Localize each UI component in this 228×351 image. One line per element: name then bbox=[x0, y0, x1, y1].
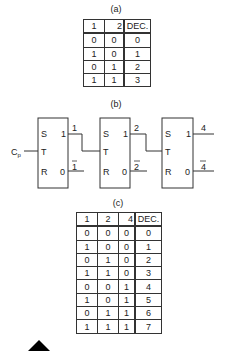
cell: 0 bbox=[98, 240, 119, 253]
table-row: 1117 bbox=[77, 320, 162, 333]
cell: 6 bbox=[135, 307, 162, 320]
cell: 0 bbox=[98, 226, 119, 240]
clock-label: Cp bbox=[11, 147, 22, 158]
cell: 1 bbox=[119, 320, 136, 333]
svg-text:0: 0 bbox=[185, 167, 190, 177]
truth-table-c: 1 2 4 DEC. 0000 1001 0102 1103 0014 1015… bbox=[76, 212, 162, 334]
cell: 1 bbox=[98, 320, 119, 333]
header-cell: 1 bbox=[77, 213, 98, 227]
header-cell: 2 bbox=[98, 213, 119, 227]
svg-text:1: 1 bbox=[123, 129, 128, 139]
table-row: 0014 bbox=[77, 280, 162, 293]
flipflop-2: S T R 1 0 2 2 bbox=[100, 118, 162, 188]
cell: 1 bbox=[119, 293, 136, 306]
svg-text:R: R bbox=[165, 167, 172, 177]
flipflop-1: S T R 1 0 1 1 bbox=[38, 118, 100, 188]
cell: 1 bbox=[77, 293, 98, 306]
svg-text:R: R bbox=[103, 167, 110, 177]
cell: 0 bbox=[135, 226, 162, 240]
svg-text:1: 1 bbox=[186, 129, 191, 139]
cell: 0 bbox=[119, 253, 136, 266]
svg-text:S: S bbox=[41, 129, 47, 139]
cell: 1 bbox=[98, 307, 119, 320]
cell: 1 bbox=[119, 280, 136, 293]
svg-text:T: T bbox=[41, 147, 47, 157]
cell: 0 bbox=[119, 267, 136, 280]
table-row: 0000 bbox=[77, 226, 162, 240]
cell: 0 bbox=[77, 253, 98, 266]
cell: 5 bbox=[135, 293, 162, 306]
caption-c: (c) bbox=[103, 198, 133, 208]
cell: 0 bbox=[119, 240, 136, 253]
table-row: 1015 bbox=[77, 293, 162, 306]
cell: 0 bbox=[77, 307, 98, 320]
table-row: 1103 bbox=[77, 267, 162, 280]
svg-text:0: 0 bbox=[122, 167, 127, 177]
svg-text:0: 0 bbox=[60, 167, 65, 177]
cell: 0 bbox=[119, 226, 136, 240]
svg-text:S: S bbox=[165, 129, 171, 139]
svg-text:T: T bbox=[165, 147, 171, 157]
svg-text:R: R bbox=[41, 167, 48, 177]
cell: 1 bbox=[77, 320, 98, 333]
cell: 1 bbox=[119, 307, 136, 320]
cell: 1 bbox=[77, 240, 98, 253]
cell: 1 bbox=[77, 267, 98, 280]
table-row: 1001 bbox=[77, 240, 162, 253]
cell: 3 bbox=[135, 267, 162, 280]
svg-text:2: 2 bbox=[134, 123, 139, 133]
svg-text:4: 4 bbox=[201, 123, 206, 133]
cell: 0 bbox=[98, 293, 119, 306]
cell: 1 bbox=[98, 267, 119, 280]
header-cell: 4 bbox=[119, 213, 136, 227]
svg-text:S: S bbox=[103, 129, 109, 139]
header-cell: DEC. bbox=[135, 213, 162, 227]
cell: 1 bbox=[98, 253, 119, 266]
cell: 7 bbox=[135, 320, 162, 333]
table-row: 0116 bbox=[77, 307, 162, 320]
cell: 0 bbox=[77, 280, 98, 293]
cell: 0 bbox=[98, 280, 119, 293]
svg-text:1: 1 bbox=[72, 123, 77, 133]
cell: 1 bbox=[135, 240, 162, 253]
cell: 2 bbox=[135, 253, 162, 266]
triangle-marker-icon bbox=[28, 340, 50, 351]
svg-text:T: T bbox=[103, 147, 109, 157]
flipflop-3: S T R 1 0 4 4 bbox=[162, 118, 214, 188]
cell: 0 bbox=[77, 226, 98, 240]
table-row: 0102 bbox=[77, 253, 162, 266]
svg-text:1: 1 bbox=[61, 129, 66, 139]
table-header-row: 1 2 4 DEC. bbox=[77, 213, 162, 227]
cell: 4 bbox=[135, 280, 162, 293]
